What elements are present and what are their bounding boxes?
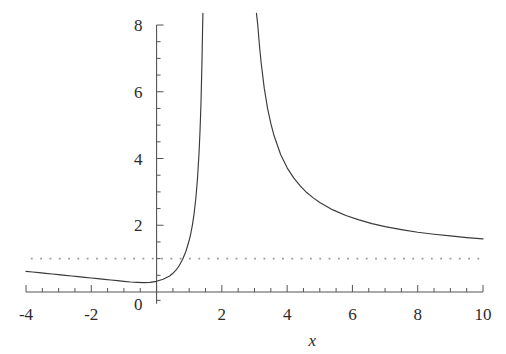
y-tick-label: 0 (109, 296, 143, 313)
x-tick-label: 8 (398, 306, 438, 323)
chart-plot-area (0, 0, 506, 354)
data-curves-group (26, 13, 483, 282)
chart-figure: 02468 -4-2246810 x (0, 0, 506, 354)
axes-group (26, 25, 483, 304)
x-tick-label: -2 (71, 306, 111, 323)
x-axis-title: x (309, 332, 317, 349)
y-tick-label: 4 (109, 151, 143, 168)
y-tick-label: 8 (109, 17, 143, 34)
y-tick-label: 6 (109, 84, 143, 101)
x-tick-label: 6 (332, 306, 372, 323)
curve-right-branch (256, 13, 483, 239)
x-tick-label: -4 (6, 306, 46, 323)
x-tick-label: 2 (202, 306, 242, 323)
x-axis-ticks (26, 285, 483, 292)
y-tick-label: 2 (109, 217, 143, 234)
horizontal-asymptote-line (31, 258, 479, 260)
x-tick-label: 10 (463, 306, 503, 323)
x-tick-label: 4 (267, 306, 307, 323)
curve-left-branch (26, 13, 203, 282)
